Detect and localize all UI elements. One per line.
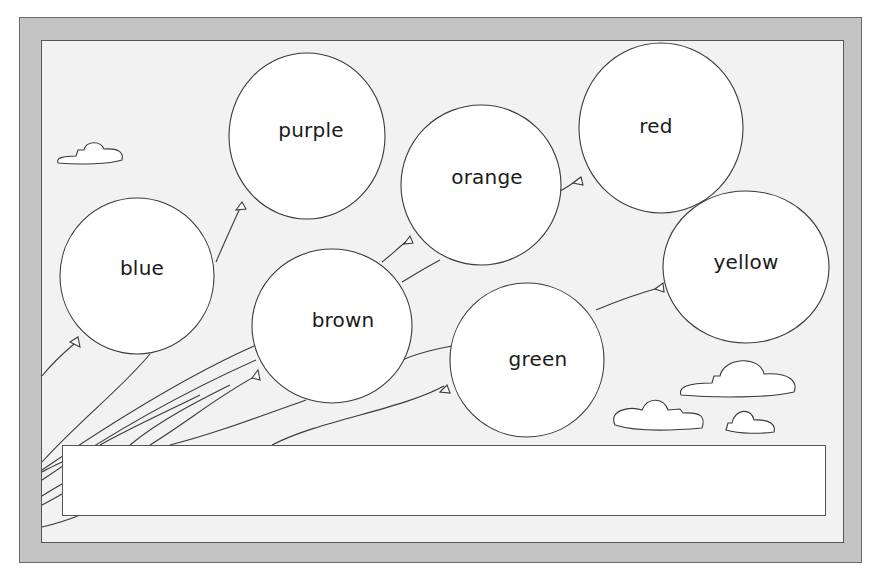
knot-orange	[404, 236, 413, 244]
knot-brown	[252, 370, 260, 380]
knot-red	[573, 177, 583, 185]
cloud-icon-small-right	[726, 411, 774, 433]
answer-box[interactable]	[62, 445, 826, 516]
string-purple	[216, 206, 241, 262]
string-lower-2	[42, 484, 62, 496]
balloon-label-brown: brown	[312, 308, 375, 332]
balloon-label-blue: blue	[120, 256, 164, 280]
balloon-label-red: red	[639, 114, 672, 138]
string-blue	[42, 344, 74, 376]
cloud-icon-topleft	[58, 143, 123, 164]
string-lower-4	[42, 515, 80, 527]
string-top-1	[130, 385, 230, 445]
cloud-icon-large-right	[680, 361, 794, 397]
string-top-2	[100, 395, 200, 445]
balloon-label-green: green	[509, 347, 568, 371]
string-yellow	[596, 287, 662, 310]
string-lower-3	[42, 494, 62, 505]
knot-yellow	[655, 283, 664, 292]
knot-green	[440, 385, 450, 393]
balloon-label-orange: orange	[451, 165, 523, 189]
cloud-icon-mid-right	[614, 400, 704, 430]
knot-purple	[236, 202, 246, 210]
string-brown-3	[150, 376, 256, 445]
balloon-label-yellow: yellow	[713, 250, 778, 274]
string-orange-2	[402, 260, 440, 282]
balloon-label-purple: purple	[278, 118, 343, 142]
